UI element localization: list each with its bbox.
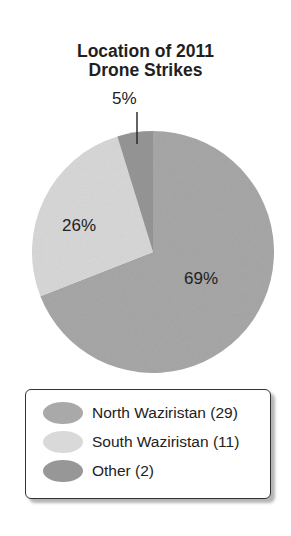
legend-item-north: North Waziristan (29): [43, 401, 238, 425]
slice-label-north: 69%: [184, 269, 218, 289]
legend-label-north: North Waziristan (29): [92, 404, 238, 422]
slice-label-other: 5%: [112, 89, 137, 109]
legend-item-south: South Waziristan (11): [43, 430, 239, 454]
legend-label-south: South Waziristan (11): [92, 433, 239, 451]
legend-swatch-north: [43, 402, 83, 424]
legend-swatch-south: [43, 431, 83, 453]
legend: North Waziristan (29) South Waziristan (…: [25, 389, 271, 499]
legend-swatch-other: [43, 460, 83, 482]
legend-item-other: Other (2): [43, 459, 154, 483]
slice-label-south: 26%: [62, 216, 96, 236]
legend-label-other: Other (2): [92, 462, 154, 480]
